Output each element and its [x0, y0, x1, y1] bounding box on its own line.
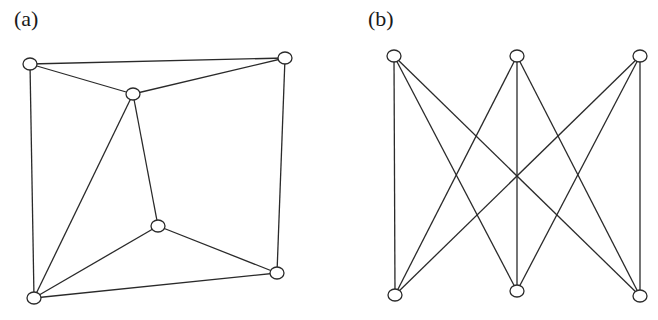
node-b4 — [388, 289, 402, 301]
edge-a1-a6 — [30, 64, 34, 298]
node-b5 — [510, 285, 524, 297]
node-a3 — [278, 52, 292, 64]
panel-b-graph — [387, 50, 647, 302]
node-b3 — [633, 50, 647, 62]
node-a4 — [151, 220, 165, 232]
node-b6 — [633, 290, 647, 302]
edge-a2-a3 — [133, 58, 285, 94]
graph-canvas — [0, 0, 658, 320]
edge-a3-a5 — [277, 58, 285, 273]
node-b1 — [387, 50, 401, 62]
edge-b1-b4 — [394, 56, 395, 295]
node-a6 — [27, 292, 41, 304]
panel-a-graph — [23, 52, 292, 304]
node-a1 — [23, 58, 37, 70]
edge-a2-a4 — [133, 94, 158, 226]
edge-a4-a5 — [158, 226, 277, 273]
edge-a2-a6 — [34, 94, 133, 298]
edge-a1-a3 — [30, 58, 285, 64]
node-a2 — [126, 88, 140, 100]
node-b2 — [510, 50, 524, 62]
node-a5 — [270, 267, 284, 279]
edge-a1-a2 — [30, 64, 133, 94]
